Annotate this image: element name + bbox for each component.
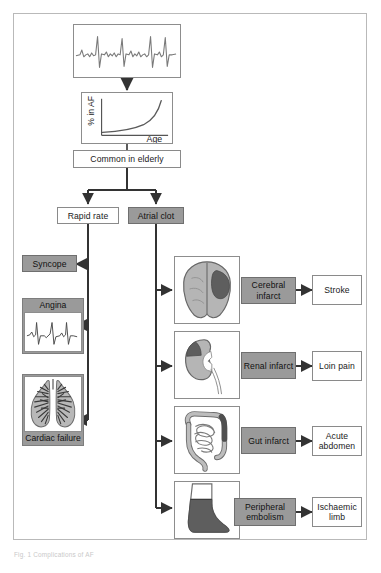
kidney-icon bbox=[175, 332, 239, 398]
node-atrial-clot[interactable]: Atrial clot bbox=[128, 207, 184, 224]
graph-xlabel: Age bbox=[147, 134, 163, 143]
kidney-panel bbox=[174, 331, 240, 399]
node-angina[interactable]: Angina bbox=[22, 298, 84, 354]
cardiac-failure-label: Cardiac failure bbox=[23, 432, 83, 445]
node-stroke[interactable]: Stroke bbox=[312, 275, 362, 305]
node-ischaemic-limb[interactable]: Ischaemic limb bbox=[312, 497, 362, 527]
node-cerebral-infarct[interactable]: Cerebral infarct bbox=[241, 277, 296, 304]
af-prevalence-graph-panel: % in AF Age bbox=[81, 92, 173, 144]
lungs-icon bbox=[25, 377, 81, 431]
graph-ylabel: % in AF bbox=[86, 96, 96, 126]
node-gut-infarct[interactable]: Gut infarct bbox=[241, 427, 296, 454]
figure-caption: Fig. 1 Complications of AF bbox=[14, 551, 94, 558]
ecg-af-panel bbox=[73, 24, 181, 78]
ecg-af-icon bbox=[74, 25, 180, 77]
brain-icon bbox=[175, 257, 239, 323]
intestines-icon bbox=[175, 407, 239, 473]
node-renal-infarct[interactable]: Renal infarct bbox=[241, 352, 296, 379]
node-rapid-rate[interactable]: Rapid rate bbox=[57, 207, 119, 224]
ecg-ischaemia-icon bbox=[25, 313, 81, 351]
brain-panel bbox=[174, 256, 240, 324]
node-acute-abdomen[interactable]: Acute abdomen bbox=[312, 426, 362, 456]
node-syncope[interactable]: Syncope bbox=[22, 255, 77, 272]
cerebral-infarct-line1: Cerebral infarct bbox=[242, 280, 295, 302]
af-prevalence-chart: % in AF Age bbox=[82, 93, 172, 143]
foot-icon bbox=[175, 482, 239, 538]
node-cardiac-failure[interactable]: Cardiac failure bbox=[22, 374, 84, 446]
node-loin-pain[interactable]: Loin pain bbox=[312, 351, 362, 381]
node-peripheral-embolism[interactable]: Peripheral embolism bbox=[234, 498, 296, 526]
figure-canvas: % in AF Age Common in elderly Rapid rate… bbox=[0, 0, 381, 573]
angina-ecg-panel bbox=[24, 312, 82, 352]
intestines-panel bbox=[174, 406, 240, 474]
node-common-in-elderly[interactable]: Common in elderly bbox=[73, 150, 181, 168]
angina-label: Angina bbox=[23, 299, 83, 312]
foot-panel bbox=[174, 481, 240, 539]
lungs-panel bbox=[24, 376, 82, 432]
